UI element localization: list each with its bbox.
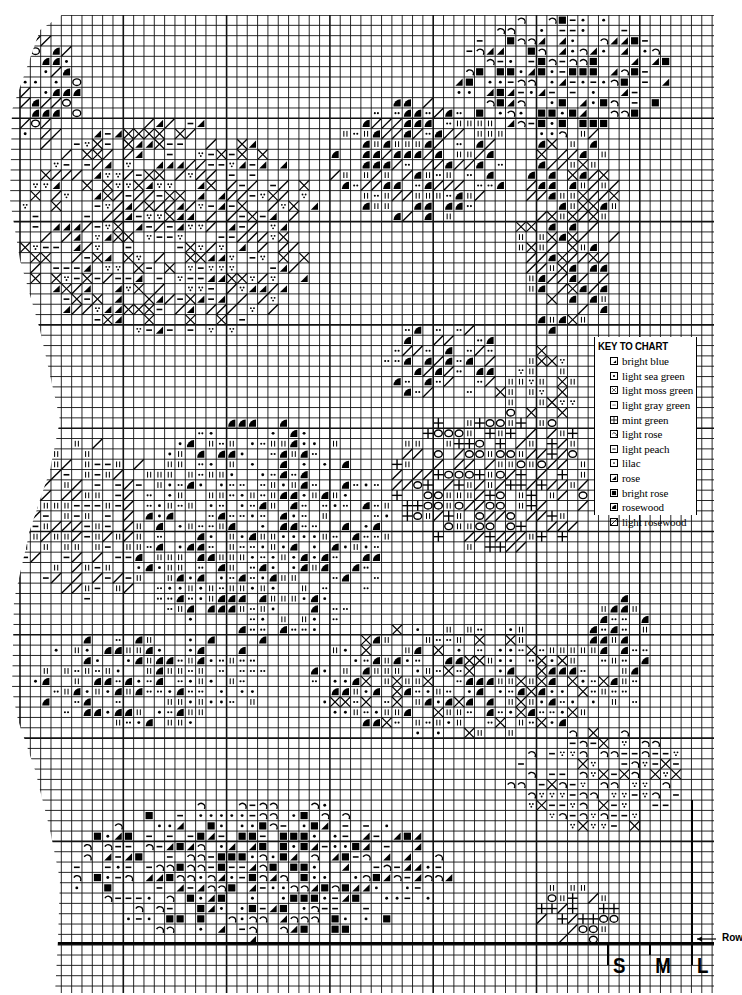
key-item-light-sea-green: light sea green	[610, 369, 694, 384]
key-item-label: rosewood	[622, 501, 664, 513]
key-item-rose: rose	[610, 471, 694, 486]
key-title: KEY TO CHART	[598, 340, 686, 352]
row-label: Row	[722, 932, 742, 943]
key-item-label: bright blue	[622, 355, 669, 367]
light-rose-icon	[610, 430, 618, 438]
size-label-m: M	[655, 955, 671, 977]
key-item-light-peach: light peach	[610, 442, 694, 457]
light-rosewood-icon	[610, 518, 618, 526]
lilac-icon	[610, 459, 618, 467]
bright-blue-icon	[610, 357, 618, 365]
key-item-rosewood: rosewood	[610, 500, 694, 515]
key-item-label: mint green	[622, 414, 668, 426]
key-item-label: light rose	[622, 428, 662, 440]
key-item-label: rose	[622, 472, 640, 484]
key-item-label: light gray green	[622, 399, 690, 411]
key-item-label: bright rose	[622, 487, 668, 499]
light-gray-green-icon	[610, 401, 618, 409]
rose-icon	[610, 474, 618, 482]
key-item-label: lilac	[622, 457, 640, 469]
size-label-l: L	[697, 955, 708, 977]
key-item-light-gray-green: light gray green	[610, 398, 694, 413]
key-item-bright-blue: bright blue	[610, 354, 694, 369]
key-item-light-moss-green: light moss green	[610, 383, 694, 398]
light-peach-icon	[610, 445, 618, 453]
key-item-bright-rose: bright rose	[610, 485, 694, 500]
key-item-label: light sea green	[622, 370, 685, 382]
light-moss-green-icon	[610, 386, 618, 394]
chart-key: KEY TO CHART bright bluelight sea greenl…	[594, 337, 697, 515]
key-item-label: light rosewood	[622, 516, 686, 528]
key-item-mint-green: mint green	[610, 412, 694, 427]
row-label-text: Row	[722, 932, 742, 943]
mint-green-icon	[610, 416, 618, 424]
light-sea-green-icon	[610, 372, 618, 380]
key-item-lilac: lilac	[610, 456, 694, 471]
key-item-light-rose: light rose	[610, 427, 694, 442]
key-item-light-rosewood: light rosewood	[610, 515, 694, 530]
key-item-label: light moss green	[622, 384, 693, 396]
bright-rose-icon	[610, 489, 618, 497]
key-item-label: light peach	[622, 443, 669, 455]
size-label-s: S	[613, 955, 625, 977]
rosewood-icon	[610, 503, 618, 511]
